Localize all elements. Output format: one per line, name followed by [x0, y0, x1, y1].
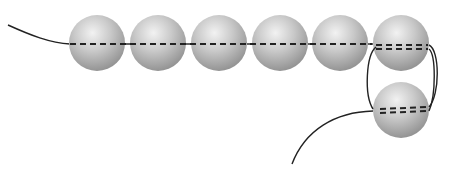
bead-2 — [130, 15, 186, 71]
diagram-canvas — [0, 0, 459, 176]
bead-row — [69, 15, 429, 138]
bead-diagram: Thread path through beads — [0, 0, 459, 176]
bead-1 — [69, 15, 125, 71]
bead-7 — [373, 82, 429, 138]
bead-3 — [191, 15, 247, 71]
bead-6 — [373, 15, 429, 71]
thread-tail-left — [8, 25, 70, 44]
thread-tail-exit — [292, 111, 373, 164]
